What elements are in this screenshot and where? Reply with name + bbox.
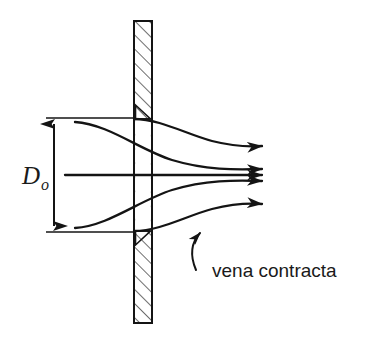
diameter-subscript: o (41, 176, 49, 193)
diameter-symbol: D (21, 162, 40, 189)
figure-background (0, 0, 367, 344)
orifice-flow-diagram: Do vena contracta (0, 0, 367, 344)
diagram-canvas: Do vena contracta (0, 0, 367, 344)
vena-contracta-label: vena contracta (212, 260, 337, 281)
